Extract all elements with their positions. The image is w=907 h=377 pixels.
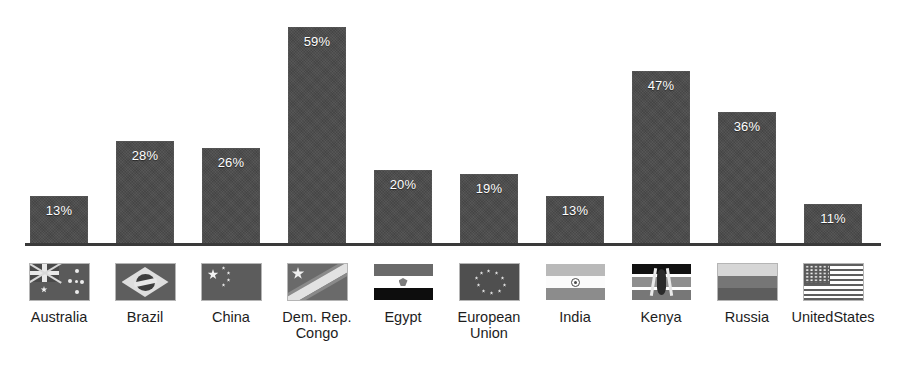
flag-kenya-icon — [632, 264, 691, 300]
legend-label: Egypt — [384, 309, 421, 325]
bar-value-label: 26% — [202, 155, 260, 170]
flag-russia-icon — [718, 264, 777, 300]
flag-egypt-icon — [374, 264, 433, 300]
legend-label: UnitedStates — [791, 309, 874, 325]
bar-value-label: 13% — [30, 203, 88, 218]
bar-chart: 13% 28% 26% 59% 20% 19% — [0, 0, 907, 377]
bar-slot-india: 13% — [544, 196, 606, 244]
legend-label: Australia — [31, 309, 87, 325]
legend-label: Brazil — [127, 309, 163, 325]
bar-slot-australia: 13% — [28, 196, 90, 244]
flag-dr-congo-icon — [288, 264, 347, 300]
flag-india-icon — [546, 264, 605, 300]
flag-australia-icon — [30, 264, 89, 300]
flag-brazil-icon — [116, 264, 175, 300]
legend-item-united-states[interactable]: UnitedStates — [781, 264, 885, 325]
bar-value-label: 47% — [632, 78, 690, 93]
bar-slot-brazil: 28% — [114, 141, 176, 244]
bar-china[interactable]: 26% — [202, 148, 260, 244]
bar-value-label: 59% — [288, 34, 346, 49]
bar-russia[interactable]: 36% — [718, 112, 776, 244]
x-axis-line — [25, 243, 881, 246]
bar-slot-china: 26% — [200, 148, 262, 244]
legend-label: Russia — [725, 309, 769, 325]
bar-value-label: 13% — [546, 203, 604, 218]
bar-dr-congo[interactable]: 59% — [288, 27, 346, 244]
flag-china-icon — [202, 264, 261, 300]
flag-european-union-icon — [460, 264, 519, 300]
legend-label: European Union — [458, 309, 521, 341]
bar-slot-egypt: 20% — [372, 170, 434, 244]
plot-area: 13% 28% 26% 59% 20% 19% — [0, 0, 907, 248]
bar-egypt[interactable]: 20% — [374, 170, 432, 244]
bar-slot-european-union: 19% — [458, 174, 520, 244]
legend-label: Kenya — [640, 309, 681, 325]
bar-slot-kenya: 47% — [630, 71, 692, 244]
bar-slot-dr-congo: 59% — [286, 27, 348, 244]
bar-united-states[interactable]: 11% — [804, 204, 862, 244]
flag-united-states-icon — [804, 264, 863, 300]
legend-label: China — [212, 309, 250, 325]
bar-india[interactable]: 13% — [546, 196, 604, 244]
bar-brazil[interactable]: 28% — [116, 141, 174, 244]
bar-european-union[interactable]: 19% — [460, 174, 518, 244]
bar-value-label: 36% — [718, 119, 776, 134]
legend: Australia Brazil China Dem. Rep. Congo — [0, 248, 907, 377]
legend-label: India — [559, 309, 590, 325]
bar-value-label: 20% — [374, 177, 432, 192]
bar-kenya[interactable]: 47% — [632, 71, 690, 244]
bar-australia[interactable]: 13% — [30, 196, 88, 244]
bar-value-label: 11% — [804, 211, 862, 226]
bar-slot-russia: 36% — [716, 112, 778, 244]
bar-value-label: 28% — [116, 148, 174, 163]
bar-slot-united-states: 11% — [802, 204, 864, 244]
legend-label: Dem. Rep. Congo — [282, 309, 351, 341]
bar-value-label: 19% — [460, 181, 518, 196]
